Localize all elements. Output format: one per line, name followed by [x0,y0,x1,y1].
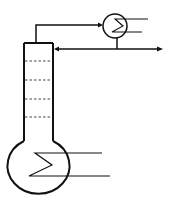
arrow-into-condenser-icon [98,23,103,28]
reflux-arrow-icon [54,47,59,52]
vapor-line [36,25,100,43]
reboiler [8,141,111,194]
column-trays [25,61,52,117]
condenser [103,14,148,38]
condenser-zigzag-icon [112,19,148,32]
distillate-arrow-icon [157,47,163,52]
distillation-diagram [0,0,169,205]
reflux-distillate-line [57,38,158,49]
distillation-column [24,43,53,141]
